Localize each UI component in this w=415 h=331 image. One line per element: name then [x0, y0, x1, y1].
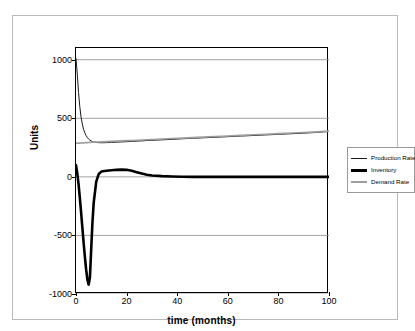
x-tick-mark	[329, 292, 330, 296]
series-line-production-rate	[76, 59, 329, 143]
x-tick-label: 60	[223, 297, 233, 306]
series-line-demand-rate	[76, 131, 329, 143]
x-tick-mark	[177, 292, 178, 296]
x-tick-mark	[228, 292, 229, 296]
x-tick-label: 40	[172, 297, 182, 306]
y-tick-mark	[72, 235, 76, 236]
x-tick-label: 0	[73, 297, 78, 306]
legend-label: Inventory	[371, 167, 396, 173]
legend-swatch-icon	[351, 169, 367, 172]
plot-svg	[76, 48, 329, 294]
x-tick-mark	[278, 292, 279, 296]
y-tick-label: 500	[57, 114, 72, 123]
y-axis-label: Units	[29, 125, 40, 150]
chart-legend: Production RateInventoryDemand Rate	[347, 147, 415, 193]
y-tick-label: 1000	[52, 55, 72, 64]
legend-swatch-icon	[351, 181, 367, 183]
y-tick-label: -1000	[49, 290, 72, 299]
y-tick-label: -500	[54, 231, 72, 240]
legend-item: Inventory	[351, 164, 411, 176]
x-tick-label: 20	[122, 297, 132, 306]
legend-item: Production Rate	[351, 152, 411, 164]
x-tick-label: 100	[321, 297, 336, 306]
plot-area: 10005000-500-1000 020406080100	[75, 47, 328, 293]
x-tick-mark	[76, 292, 77, 296]
chart-frame: 10005000-500-1000 020406080100 Units tim…	[12, 15, 398, 320]
y-tick-mark	[72, 60, 76, 61]
legend-item: Demand Rate	[351, 176, 411, 188]
x-axis-label: time (months)	[75, 315, 328, 326]
y-tick-mark	[72, 177, 76, 178]
legend-swatch-icon	[351, 158, 367, 159]
series-line-inventory	[76, 165, 329, 284]
series-lines	[76, 59, 329, 285]
y-tick-mark	[72, 118, 76, 119]
x-tick-mark	[127, 292, 128, 296]
x-tick-label: 80	[273, 297, 283, 306]
legend-label: Demand Rate	[371, 179, 409, 185]
legend-label: Production Rate	[371, 155, 415, 161]
